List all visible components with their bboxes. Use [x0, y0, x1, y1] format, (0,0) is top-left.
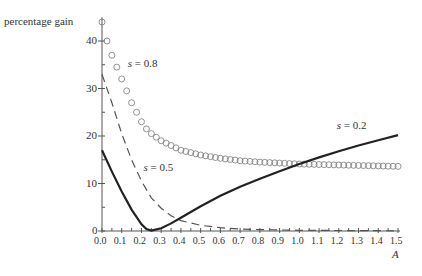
x-tick-label: 0.2	[133, 235, 146, 246]
x-tick-label: 0.9	[272, 235, 285, 246]
y-tick-label: 20	[86, 129, 97, 141]
dashed-line-s05	[102, 74, 398, 231]
x-tick-label: 0.3	[153, 235, 166, 246]
data-point-circle	[134, 109, 140, 115]
y-tick-label: 0	[92, 224, 98, 236]
x-axis-label: A	[392, 248, 399, 260]
x-tick-label: 1.5	[390, 235, 403, 246]
x-tick-label: 0.7	[232, 235, 245, 246]
data-point-circle	[124, 88, 130, 94]
data-point-circle	[119, 76, 125, 82]
data-point-circle	[143, 126, 149, 132]
series-annotation: s = 0.5	[143, 161, 173, 173]
data-point-circle	[138, 119, 144, 125]
x-tick-label: 1.4	[370, 235, 383, 246]
series-annotation: s = 0.8	[128, 57, 158, 69]
data-point-circle	[129, 100, 135, 106]
x-tick-label: 0.4	[173, 235, 186, 246]
x-tick-label: 0.6	[212, 235, 225, 246]
solid-line-s02	[102, 135, 398, 230]
data-point-circle	[114, 64, 120, 70]
x-tick-label: 0.5	[193, 235, 206, 246]
x-tick-label: 0.0	[94, 235, 107, 246]
data-point-circle	[109, 52, 115, 58]
y-tick-label: 10	[86, 177, 97, 189]
x-tick-label: 0.8	[252, 235, 265, 246]
x-tick-label: 1.3	[351, 235, 364, 246]
y-tick-label: 40	[86, 34, 97, 46]
x-tick-label: 1.0	[291, 235, 304, 246]
x-tick-label: 1.1	[311, 235, 324, 246]
x-tick-label: 1.2	[331, 235, 344, 246]
y-tick-label: 30	[86, 82, 97, 94]
y-axis-label: percentage gain	[4, 15, 73, 27]
series-annotation: s = 0.2	[337, 119, 367, 131]
x-tick-label: 0.1	[114, 235, 127, 246]
